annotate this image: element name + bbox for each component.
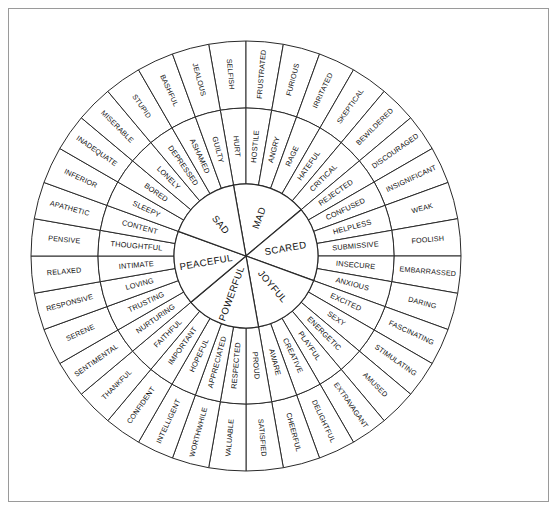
feelings-wheel-svg: SELFISHFRUSTRATEDFURIOUSIRRITATEDSKEPTIC… [0, 0, 559, 512]
core-ring [174, 184, 318, 328]
feelings-wheel: SELFISHFRUSTRATEDFURIOUSIRRITATEDSKEPTIC… [0, 0, 559, 512]
middle-label: HURT [232, 136, 243, 158]
